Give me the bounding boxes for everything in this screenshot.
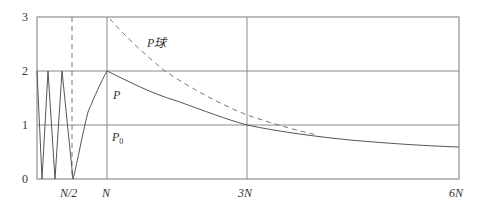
x-tick-3n: 3N bbox=[237, 186, 253, 200]
label-p: P bbox=[112, 88, 121, 102]
series-p-ball-line bbox=[110, 19, 317, 135]
x-tick-half-n: N/2 bbox=[59, 186, 77, 200]
label-p0: P0 bbox=[111, 130, 123, 146]
y-tick-3: 3 bbox=[22, 10, 28, 24]
y-tick-1: 1 bbox=[22, 118, 28, 132]
y-tick-2: 2 bbox=[22, 64, 28, 78]
plot-frame bbox=[37, 17, 459, 179]
label-p0-sub: 0 bbox=[119, 137, 123, 146]
chart: 3 2 1 0 N/2 N 3N 6N P球 P P0 bbox=[0, 0, 487, 212]
x-tick-6n: 6N bbox=[449, 186, 464, 200]
label-p-ball: P球 bbox=[146, 36, 168, 50]
y-tick-0: 0 bbox=[22, 172, 28, 186]
x-tick-n: N bbox=[101, 186, 111, 200]
